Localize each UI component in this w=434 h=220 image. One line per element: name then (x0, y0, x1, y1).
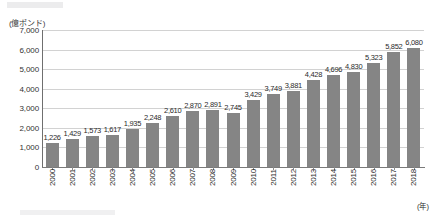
x-axis-tick-label: 2014 (329, 173, 339, 182)
bar[interactable] (146, 123, 159, 167)
x-axis-tick-label: 2012 (288, 173, 298, 182)
x-axis-tick-label: 2000 (47, 173, 57, 182)
x-axis-tick-label-text: 2005 (148, 169, 157, 186)
x-axis-tick-label: 2007 (188, 173, 198, 182)
scan-artifact-top (7, 2, 63, 8)
scan-artifact-bottom (20, 210, 115, 215)
bar[interactable] (367, 63, 380, 167)
bar-value-label: 5,852 (385, 42, 402, 51)
x-axis-tick-label-text: 2014 (329, 169, 338, 186)
y-axis-tick-label: 1,000 (3, 143, 39, 152)
x-axis-tick-label-text: 2006 (168, 169, 177, 186)
x-axis-tick-label-text: 2012 (289, 169, 298, 186)
y-axis-line (42, 30, 43, 168)
x-axis-tick-label: 2013 (308, 173, 318, 182)
y-axis-tick-label: 0 (3, 163, 39, 172)
gridline (42, 30, 424, 31)
x-axis-tick-label: 2008 (208, 173, 218, 182)
x-axis-tick-label-text: 2007 (188, 169, 197, 186)
bar[interactable] (86, 136, 99, 167)
x-axis-tick-label: 2015 (349, 173, 359, 182)
x-axis-tick-label-text: 2011 (269, 169, 278, 185)
bar[interactable] (126, 129, 139, 167)
x-axis-tick-label: 2004 (127, 173, 137, 182)
chart-screenshot: (億ポンド) 7,0006,0005,0004,0003,0002,0001,0… (0, 0, 434, 220)
x-axis-tick-label-text: 2002 (88, 169, 97, 186)
bar[interactable] (227, 113, 240, 167)
x-axis-tick-label: 2018 (409, 173, 419, 182)
x-axis-tick-label: 2009 (228, 173, 238, 182)
bar-value-label: 1,617 (104, 125, 121, 134)
x-axis-tick-label-text: 2016 (369, 169, 378, 186)
bar-value-label: 2,891 (204, 100, 221, 109)
bar-value-label: 3,749 (265, 84, 282, 93)
bar-value-label: 5,323 (365, 53, 382, 62)
bar-value-label: 3,429 (244, 90, 261, 99)
bar-value-label: 3,881 (285, 81, 302, 90)
bar-value-label: 1,935 (124, 119, 141, 128)
y-axis-tick-labels: 7,0006,0005,0004,0003,0002,0001,0000 (0, 30, 39, 168)
x-axis-tick-label: 2016 (369, 173, 379, 182)
bar-value-label: 4,696 (325, 65, 342, 74)
plot-area: 1,2261,4291,5731,6171,9352,2482,6102,870… (42, 30, 424, 167)
bar-value-label: 6,080 (405, 38, 422, 47)
bar[interactable] (106, 135, 119, 167)
x-axis-tick-label: 2002 (87, 173, 97, 182)
y-axis-tick-label: 5,000 (3, 65, 39, 74)
bar[interactable] (247, 100, 260, 167)
bar[interactable] (186, 111, 199, 167)
bar[interactable] (166, 116, 179, 167)
bar-value-label: 1,226 (43, 133, 60, 142)
x-axis-tick-label-text: 2003 (108, 169, 117, 186)
x-axis-tick-label-text: 2010 (249, 169, 258, 186)
bar[interactable] (267, 94, 280, 167)
x-axis-tick-label-text: 2018 (409, 169, 418, 186)
bar[interactable] (66, 139, 79, 167)
bar-value-label: 2,610 (164, 106, 181, 115)
x-axis-tick-label-text: 2000 (48, 169, 57, 186)
bar[interactable] (206, 110, 219, 167)
bar[interactable] (387, 52, 400, 167)
x-axis-tick-label-text: 2015 (349, 169, 358, 186)
y-axis-tick-label: 4,000 (3, 84, 39, 93)
x-axis-tick-label: 2017 (389, 173, 399, 182)
x-axis-tick-label: 2003 (107, 173, 117, 182)
bar-value-label: 1,429 (64, 129, 81, 138)
x-axis-tick-label-text: 2004 (128, 169, 137, 186)
x-axis-tick-label-text: 2017 (389, 169, 398, 186)
x-axis-tick-label: 2005 (148, 173, 158, 182)
x-axis-tick-label: 2006 (168, 173, 178, 182)
bar-value-label: 2,745 (224, 103, 241, 112)
bar[interactable] (327, 75, 340, 167)
x-axis-tick-label: 2011 (268, 173, 278, 182)
y-axis-tick-label: 2,000 (3, 123, 39, 132)
gridline (42, 50, 424, 51)
bar-value-label: 2,248 (144, 113, 161, 122)
bar[interactable] (46, 143, 59, 167)
x-axis-tick-label-text: 2008 (208, 169, 217, 186)
x-axis-tick-label-text: 2001 (68, 169, 77, 186)
x-axis-tick-label-text: 2013 (309, 169, 318, 186)
bar-value-label: 4,428 (305, 70, 322, 79)
y-axis-tick-label: 6,000 (3, 45, 39, 54)
x-axis-unit-label: (年) (417, 200, 429, 211)
bar-value-label: 4,830 (345, 62, 362, 71)
bar-value-label: 2,870 (184, 101, 201, 110)
bar[interactable] (347, 72, 360, 167)
x-axis-tick-label-text: 2009 (229, 169, 238, 186)
x-axis-tick-label: 2001 (67, 173, 77, 182)
bar[interactable] (307, 80, 320, 167)
y-axis-tick-label: 3,000 (3, 104, 39, 113)
bar[interactable] (407, 48, 420, 167)
bar[interactable] (287, 91, 300, 167)
y-axis-tick-label: 7,000 (3, 26, 39, 35)
bar-value-label: 1,573 (84, 126, 101, 135)
x-axis-tick-label: 2010 (248, 173, 258, 182)
